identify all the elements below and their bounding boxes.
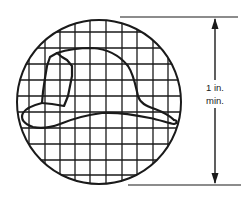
dimension-value: 1 in. xyxy=(195,82,235,94)
helmet-emblem-diagram: 1 in. min. xyxy=(0,0,251,200)
dimension-qualifier: min. xyxy=(195,95,235,107)
arrow-up-icon xyxy=(212,18,219,29)
arrow-down-icon xyxy=(212,173,219,184)
